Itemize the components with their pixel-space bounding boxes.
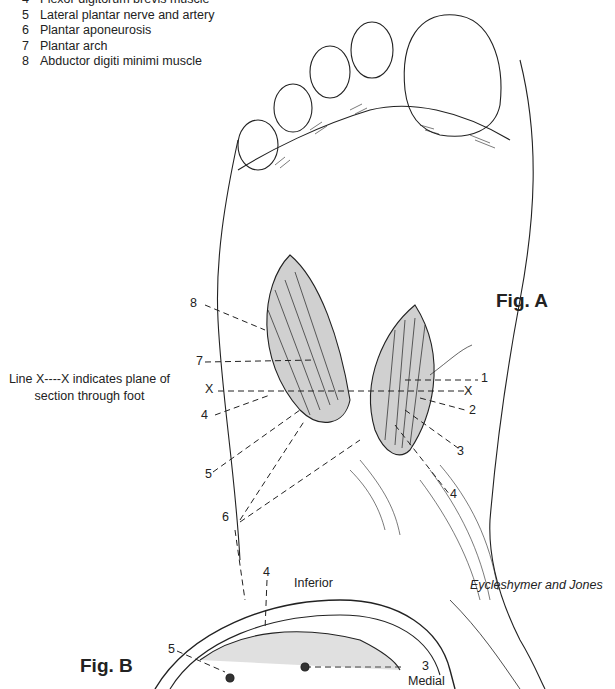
callout-2: 2: [469, 403, 476, 417]
leader-4-left: [215, 395, 270, 415]
vessel-5: [226, 674, 234, 682]
callout-b-5: 5: [168, 642, 175, 656]
callout-4-left: 4: [201, 408, 208, 422]
leader-6a: [240, 420, 305, 520]
legend-item: 4Flexor digitorum brevis muscle: [22, 0, 214, 8]
leader-4-right: [395, 425, 450, 495]
leader-5: [213, 410, 300, 472]
toe-2: [351, 22, 393, 78]
leader-8: [205, 305, 265, 330]
orientation-inferior: Inferior: [294, 576, 333, 590]
callout-4-right: 4: [450, 487, 457, 501]
callout-b-4: 4: [263, 565, 270, 579]
legend: 4Flexor digitorum brevis muscle 5Lateral…: [22, 0, 214, 70]
callout-5: 5: [205, 467, 212, 481]
legend-item: 8Abductor digiti minimi muscle: [22, 54, 214, 70]
toe-5: [238, 120, 278, 170]
leader-6b: [240, 440, 360, 522]
toe-big: [404, 15, 501, 136]
callout-x-left: X: [205, 382, 213, 396]
toe-3: [310, 46, 350, 98]
orientation-medial: Medial: [408, 674, 445, 688]
callout-6: 6: [222, 510, 229, 524]
callout-8: 8: [190, 296, 197, 310]
toe-4: [274, 84, 312, 132]
credit: Eycleshymer and Jones: [470, 578, 603, 592]
legend-item: 5Lateral plantar nerve and artery: [22, 8, 214, 24]
fig-b-title: Fig. B: [80, 655, 133, 677]
callout-x-right: X: [464, 384, 472, 398]
fig-a-title: Fig. A: [496, 290, 548, 312]
callout-1: 1: [481, 371, 488, 385]
legend-item: 7Plantar arch: [22, 39, 214, 55]
vessel-3: [301, 663, 309, 671]
callout-7: 7: [196, 354, 203, 368]
legend-item: 6Plantar aponeurosis: [22, 23, 214, 39]
callout-3: 3: [457, 444, 464, 458]
section-plane-note: Line X----X indicates plane of section t…: [2, 371, 177, 405]
leader-6-down: [235, 530, 245, 600]
foot-outline: [217, 140, 240, 560]
callout-b-3: 3: [422, 659, 429, 673]
leader-b4: [265, 580, 267, 630]
